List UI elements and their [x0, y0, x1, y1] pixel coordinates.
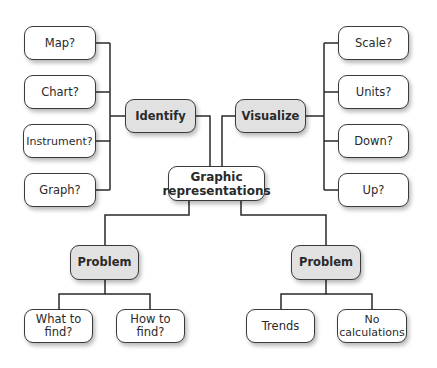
node-label-line2: representations [162, 184, 270, 198]
node-identify: Identify [125, 99, 196, 133]
node-label: Identify [135, 110, 185, 123]
node-map: Map? [24, 26, 96, 60]
node-instrument: Instrument? [23, 124, 96, 158]
node-label-line1: No [365, 313, 380, 326]
node-up: Up? [338, 173, 409, 207]
node-label-line2: find? [137, 326, 165, 339]
node-problem-right: Problem [291, 245, 361, 280]
node-root-graphic-representations: Graphic representations [168, 166, 265, 201]
node-label: Problem [299, 256, 353, 269]
node-label-line2: find? [45, 326, 73, 339]
node-label: Up? [363, 184, 385, 197]
node-label: Visualize [242, 110, 300, 123]
node-label: Instrument? [26, 135, 92, 148]
node-label: Scale? [355, 37, 392, 50]
node-how-to-find: How to find? [116, 309, 185, 343]
node-label: Problem [78, 256, 132, 269]
node-label: Map? [45, 37, 75, 50]
node-label-line2: calculations [339, 326, 404, 339]
node-label: Trends [262, 320, 299, 333]
concept-map: Map? Chart? Instrument? Graph? Identify … [0, 0, 437, 368]
node-label: Graph? [39, 184, 80, 197]
node-down: Down? [338, 124, 409, 158]
node-label: Chart? [41, 86, 79, 99]
node-units: Units? [338, 75, 409, 109]
node-chart: Chart? [24, 75, 96, 109]
node-what-to-find: What to find? [24, 309, 93, 343]
node-graph: Graph? [24, 173, 96, 207]
node-no-calculations: No calculations [337, 309, 407, 343]
node-label: Down? [354, 135, 393, 148]
node-label-line1: Graphic [190, 170, 242, 184]
node-trends: Trends [246, 309, 315, 343]
node-scale: Scale? [338, 26, 409, 60]
node-problem-left: Problem [70, 245, 139, 280]
node-label: Units? [356, 86, 392, 99]
node-visualize: Visualize [235, 99, 306, 133]
